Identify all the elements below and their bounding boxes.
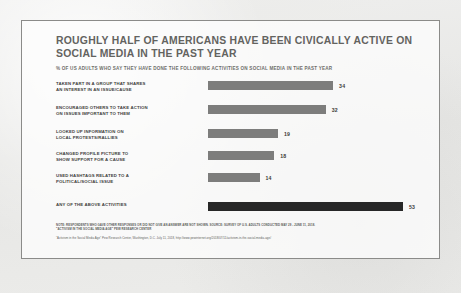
bar-track xyxy=(208,173,260,182)
bar xyxy=(208,81,333,90)
bar-value-label: 53 xyxy=(409,204,415,210)
bar-value-label: 19 xyxy=(284,131,290,137)
bar xyxy=(208,129,278,138)
bar-category-label: ENCOURAGED OTHERS TO TAKE ACTION ON ISSU… xyxy=(56,105,184,116)
bar-track xyxy=(208,151,274,160)
bar-chart: TAKEN PART IN A GROUP THAT SHARES AN INT… xyxy=(56,81,428,221)
bar xyxy=(208,202,403,211)
page-subtitle: % OF US ADULTS WHO SAY THEY HAVE DONE TH… xyxy=(56,66,416,72)
bar-value-label: 32 xyxy=(332,107,338,113)
bar-category-label: ANY OF THE ABOVE ACTIVITIES xyxy=(56,202,184,208)
bar-category-label: CHANGED PROFILE PICTURE TO SHOW SUPPORT … xyxy=(56,151,184,162)
bar xyxy=(208,105,326,114)
bar xyxy=(208,151,274,160)
bar-track xyxy=(208,129,278,138)
bar xyxy=(208,173,260,182)
bar-category-label: TAKEN PART IN A GROUP THAT SHARES AN INT… xyxy=(56,81,184,92)
slide-header: ROUGHLY HALF OF AMERICANS HAVE BEEN CIVI… xyxy=(56,35,416,72)
bar-category-label: LOOKED UP INFORMATION ON LOCAL PROTESTS/… xyxy=(56,129,184,140)
slide-frame: ROUGHLY HALF OF AMERICANS HAVE BEEN CIVI… xyxy=(21,20,440,259)
chart-note: NOTE: RESPONDENTS WHO GAVE OTHER RESPONS… xyxy=(56,223,428,231)
footnotes: NOTE: RESPONDENTS WHO GAVE OTHER RESPONS… xyxy=(56,223,428,240)
bar-track xyxy=(208,202,403,211)
page-title: ROUGHLY HALF OF AMERICANS HAVE BEEN CIVI… xyxy=(56,35,416,60)
bar-value-label: 34 xyxy=(339,83,345,89)
bar-value-label: 14 xyxy=(266,175,272,181)
bar-category-label: USED HASHTAGS RELATED TO A POLITICAL/SOC… xyxy=(56,173,184,184)
bar-track xyxy=(208,105,326,114)
bar-value-label: 18 xyxy=(280,153,286,159)
chart-source: "Activism in the Social Media Age" Pew R… xyxy=(56,236,428,240)
bar-track xyxy=(208,81,333,90)
